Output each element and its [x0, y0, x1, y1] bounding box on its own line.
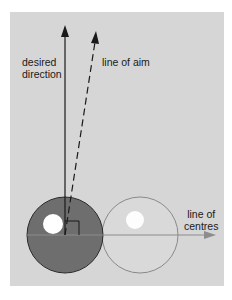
desired-direction-label-line1: desired	[22, 56, 62, 68]
line-of-aim-arrowhead	[91, 31, 99, 44]
line-of-centres-label-line1: line of	[184, 208, 218, 220]
cue-ball-highlight	[43, 214, 63, 234]
line-of-centres-label: line of centres	[184, 208, 218, 232]
line-of-centres-arrowhead	[204, 231, 216, 239]
desired-direction-label: desired direction	[22, 56, 62, 80]
object-ball-highlight	[126, 211, 144, 229]
line-of-aim-label: line of aim	[102, 56, 150, 68]
billiards-diagram	[0, 0, 232, 300]
desired-direction-arrowhead	[61, 25, 69, 37]
line-of-centres-label-line2: centres	[184, 220, 218, 232]
desired-direction-label-line2: direction	[22, 68, 62, 80]
